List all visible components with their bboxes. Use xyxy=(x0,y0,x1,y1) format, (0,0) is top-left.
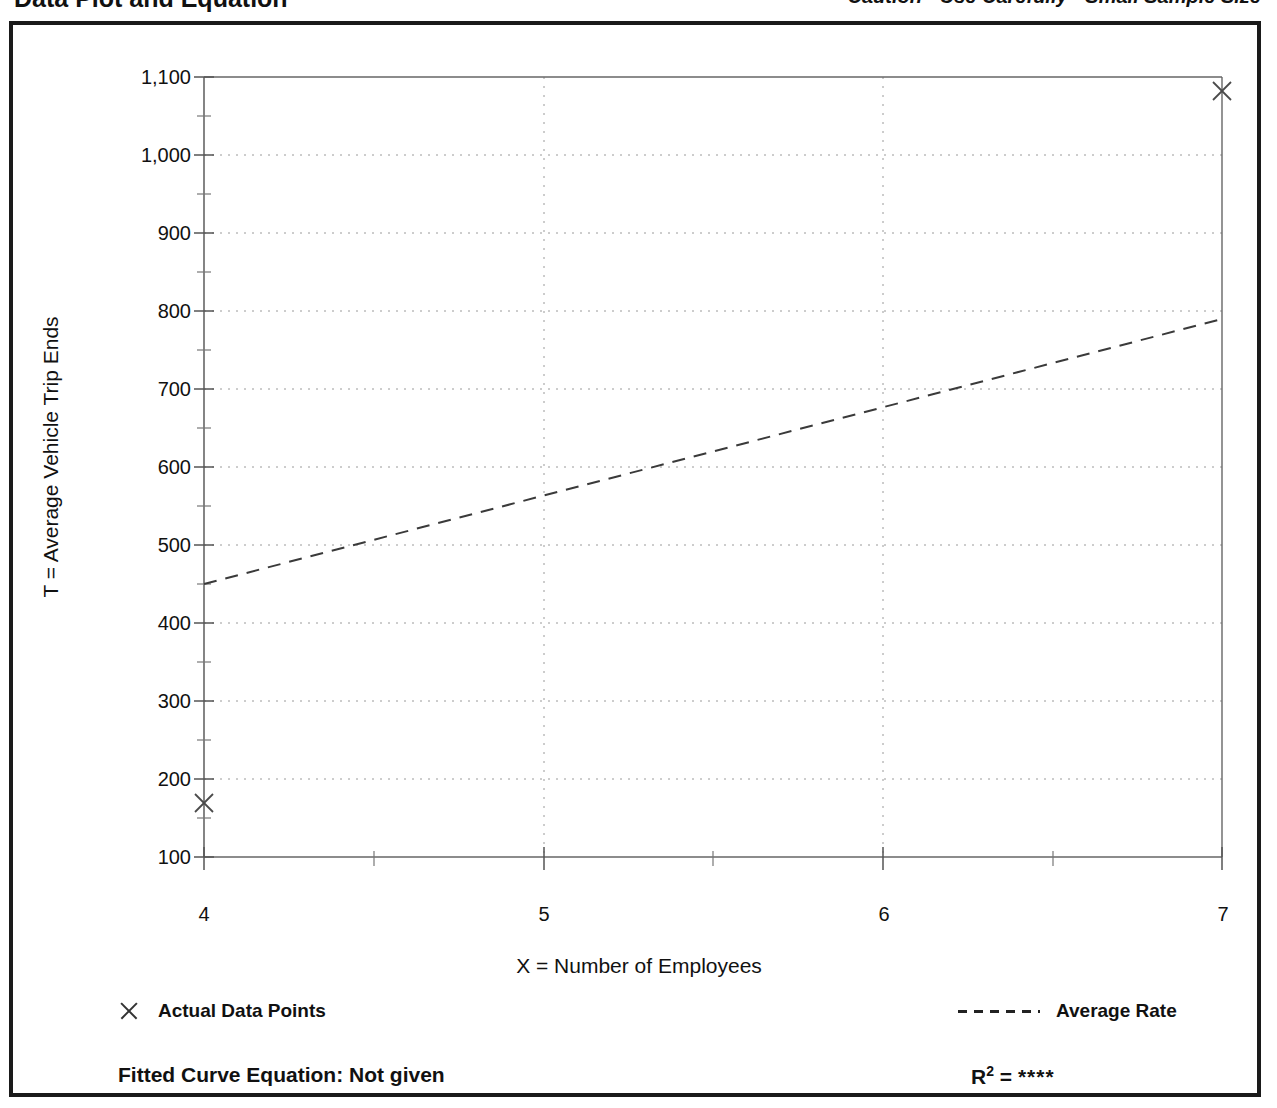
x-axis-title: X = Number of Employees xyxy=(13,954,1265,978)
page-title: Data Plot and Equation xyxy=(14,0,288,13)
r-squared-equals: = xyxy=(994,1065,1018,1088)
r-squared-stars: **** xyxy=(1018,1065,1055,1088)
dashed-line-icon xyxy=(958,1010,1040,1013)
horizontal-gridlines xyxy=(204,155,1222,779)
vertical-gridlines xyxy=(544,77,883,857)
chart-legend: Actual Data Points Average Rate xyxy=(13,1000,1265,1042)
fitted-curve-equation: Fitted Curve Equation: Not given xyxy=(118,1063,445,1087)
legend-label-average-rate: Average Rate xyxy=(1056,1000,1177,1022)
legend-label-actual-data-points: Actual Data Points xyxy=(158,1000,326,1022)
r-squared-symbol: R xyxy=(971,1065,986,1088)
caution-note: Caution - Use Carefully - Small Sample S… xyxy=(848,0,1261,8)
r-squared-exponent: 2 xyxy=(986,1063,994,1079)
r-squared-value: R2 = **** xyxy=(971,1063,1055,1089)
legend-item-actual-data-points: Actual Data Points xyxy=(118,1000,326,1022)
chart-panel: T = Average Vehicle Trip Ends X = Number… xyxy=(9,21,1261,1097)
plot-area xyxy=(13,25,1265,955)
x-minor-ticks xyxy=(374,851,1053,866)
document-header: Data Plot and Equation Caution - Use Car… xyxy=(0,0,1277,20)
chart-region: T = Average Vehicle Trip Ends X = Number… xyxy=(13,25,1265,1101)
average-rate-line xyxy=(204,319,1222,584)
legend-item-average-rate: Average Rate xyxy=(958,1000,1177,1022)
equation-row: Fitted Curve Equation: Not given R2 = **… xyxy=(13,1063,1265,1108)
x-marker-icon xyxy=(118,1000,140,1022)
